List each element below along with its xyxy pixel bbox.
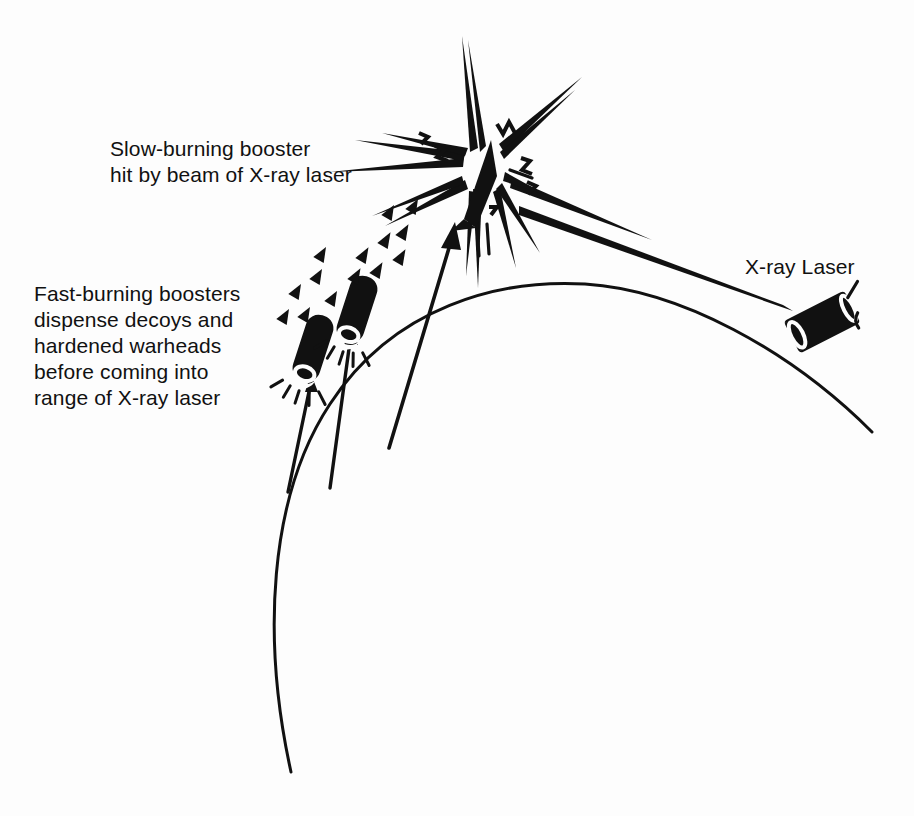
diagram-canvas: Slow-burning booster hit by beam of X-ra… [0,0,914,816]
caption-fast-burning-boosters: Fast-burning boosters dispense decoys an… [34,281,240,411]
label-xray-laser: X-ray Laser [745,254,855,280]
explosion-burst [330,36,652,288]
caption-slow-burning-booster: Slow-burning booster hit by beam of X-ra… [110,136,352,188]
x-ray-laser-satellite [768,281,876,364]
